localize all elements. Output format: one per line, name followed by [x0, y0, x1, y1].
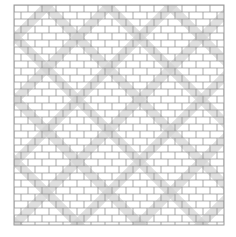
brick-lattice-artwork: [0, 0, 236, 237]
